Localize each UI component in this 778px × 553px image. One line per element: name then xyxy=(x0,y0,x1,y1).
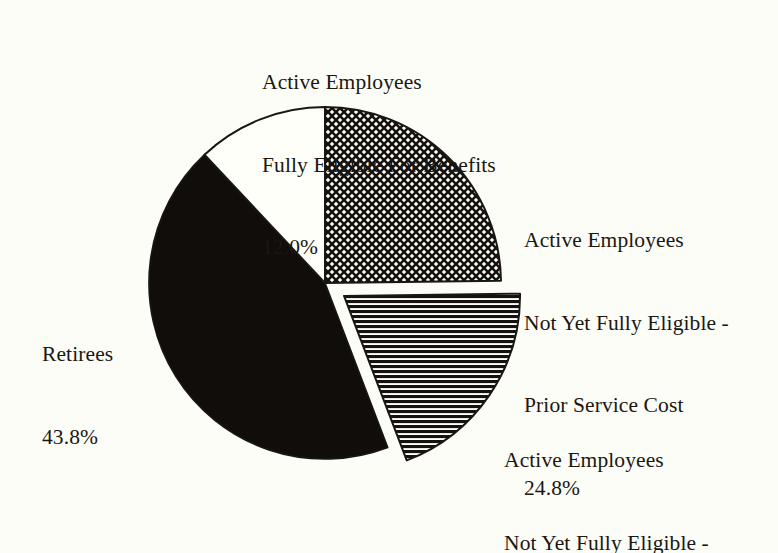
slice-label-percent: 43.8% xyxy=(42,424,113,452)
pie-chart: Active Employees Fully Eligible For Bene… xyxy=(0,0,778,553)
slice-label-line: Retirees xyxy=(42,341,113,369)
slice-label-line: Fully Eligible For Benefits xyxy=(262,152,496,180)
slice-label-line: Not Yet Fully Eligible - xyxy=(524,310,729,338)
slice-label-retirees: Retirees 43.8% xyxy=(42,286,113,506)
slice-label-line: Active Employees xyxy=(262,69,496,97)
slice-label-line: Not Yet Fully Eligible - xyxy=(504,530,709,553)
slice-label-fully-eligible: Active Employees Fully Eligible For Bene… xyxy=(262,14,496,317)
slice-label-line: Active Employees xyxy=(504,447,709,475)
slice-label-line: Active Employees xyxy=(524,227,729,255)
slice-label-percent: 12.0% xyxy=(262,234,496,262)
slice-label-present-value-future-service-cost: Active Employees Not Yet Fully Eligible … xyxy=(504,392,709,553)
